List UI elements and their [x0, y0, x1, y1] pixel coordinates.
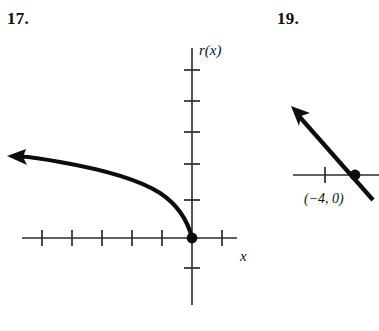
function-line-19	[298, 115, 373, 200]
function-curve-17	[20, 157, 192, 239]
intercept-point-marker-19	[350, 170, 361, 181]
x-axis-label-17: x	[239, 248, 247, 264]
function-label-17: r(x)	[199, 42, 222, 59]
intercept-point-label-19: (−4, 0)	[304, 191, 344, 207]
origin-point-marker-17	[187, 233, 198, 244]
worksheet-page: 17. 19.	[0, 0, 379, 331]
graph-figure-19: (−4, 0)	[265, 0, 379, 331]
graph-figure-17: r(x) x	[0, 0, 265, 331]
